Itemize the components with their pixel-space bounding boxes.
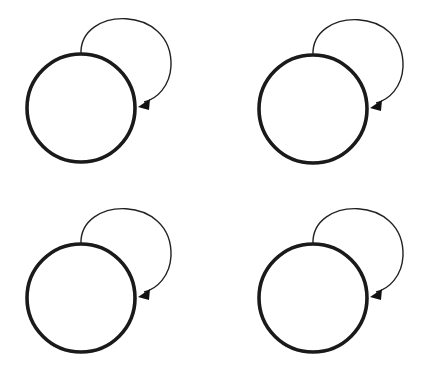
- state-node: [27, 19, 171, 162]
- self-loop-arc: [313, 20, 403, 103]
- node-circle: [259, 244, 367, 352]
- diagram-canvas: [0, 0, 421, 366]
- state-node: [259, 209, 403, 352]
- self-loop-arc: [81, 209, 171, 292]
- state-node: [27, 209, 171, 352]
- node-circle: [27, 244, 135, 352]
- state-node: [259, 20, 403, 163]
- self-loop-arc: [81, 19, 171, 102]
- node-circle: [259, 55, 367, 163]
- node-layer: [27, 19, 403, 352]
- arrowhead-icon: [370, 100, 382, 111]
- node-circle: [27, 54, 135, 162]
- self-loop-arc: [313, 209, 403, 292]
- arrowhead-icon: [138, 99, 150, 110]
- arrowhead-icon: [370, 289, 382, 300]
- arrowhead-icon: [138, 289, 150, 300]
